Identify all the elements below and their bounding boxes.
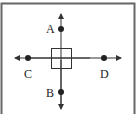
diagram-canvas: A B C D [0,0,136,114]
point-c-label: C [24,67,32,81]
point-b-label: B [46,86,54,100]
point-c-dot [25,55,31,61]
point-b-dot [58,89,64,95]
frame-border [2,4,135,115]
point-a-dot [58,26,64,32]
point-a-label: A [46,22,55,36]
point-d-label: D [100,67,109,81]
point-d-dot [101,55,107,61]
